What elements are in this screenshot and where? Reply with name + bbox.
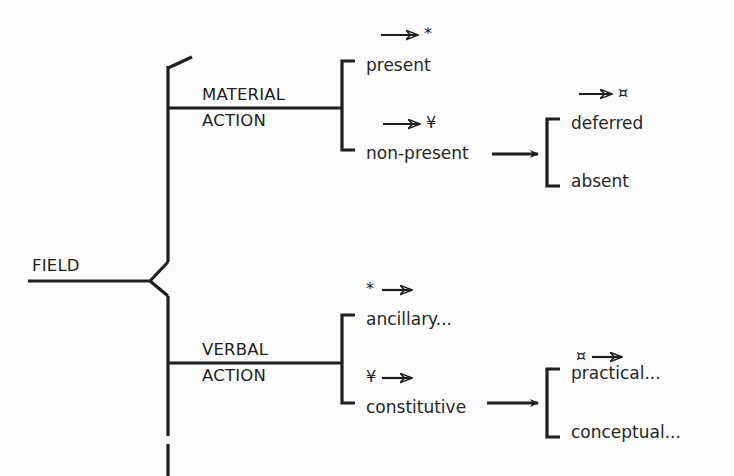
deferred-absent-bracket xyxy=(547,119,560,186)
term-present: present xyxy=(366,57,431,74)
term-non-present: non-present xyxy=(366,145,469,162)
system-network-diagram: FIELD MATERIAL ACTION present non-presen… xyxy=(0,0,734,476)
term-absent: absent xyxy=(571,173,629,190)
system-name-verbal: VERBAL xyxy=(202,342,268,359)
system-name-material: MATERIAL xyxy=(202,87,285,104)
marker-symbol-constitutive: ¥ xyxy=(366,369,376,385)
marker-symbol-non-present: ¥ xyxy=(426,115,436,131)
system-name-action-upper: ACTION xyxy=(202,113,266,130)
system-name-action-lower: ACTION xyxy=(202,368,266,385)
verbal-action-bracket xyxy=(342,315,355,403)
spine-top-hook xyxy=(168,57,192,68)
marker-symbol-ancillary: * xyxy=(366,281,374,297)
term-deferred: deferred xyxy=(571,115,643,132)
entry-label-field: FIELD xyxy=(32,258,80,275)
term-conceptual: conceptual... xyxy=(571,424,681,441)
term-constitutive: constitutive xyxy=(366,399,466,416)
practical-conceptual-bracket xyxy=(547,369,560,437)
marker-symbol-practical: ¤ xyxy=(576,348,586,364)
field-junction-upper xyxy=(150,262,168,281)
term-practical: practical... xyxy=(571,365,661,382)
field-junction-lower xyxy=(150,281,168,296)
marker-symbol-present: * xyxy=(424,26,432,42)
marker-symbol-deferred: ¤ xyxy=(618,85,628,101)
material-action-bracket xyxy=(342,61,355,150)
term-ancillary: ancillary... xyxy=(366,311,452,328)
